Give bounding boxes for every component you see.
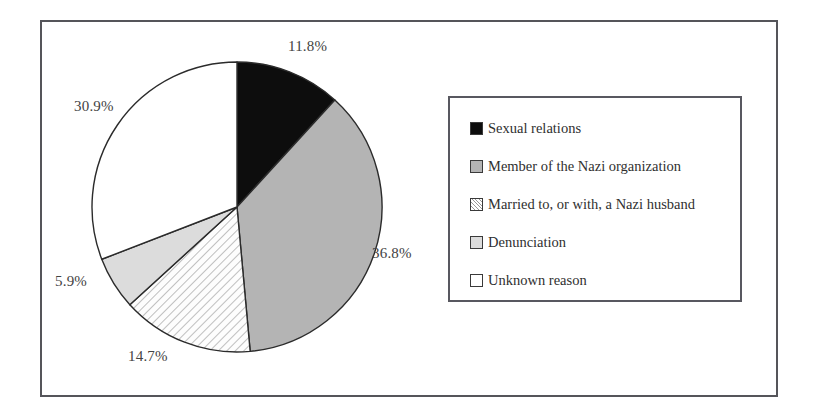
legend-swatch-sexual-relations [470, 122, 483, 135]
legend-label-denunciation: Denunciation [488, 235, 566, 250]
chart-legend: Sexual relations Member of the Nazi orga… [448, 96, 742, 302]
legend-swatch-nazi-husband [470, 198, 483, 211]
legend-swatch-nazi-member [470, 160, 483, 173]
legend-label-unknown-reason: Unknown reason [488, 273, 587, 288]
pie-value-label-nazi-husband: 14.7% [128, 348, 168, 365]
legend-item-nazi-member: Member of the Nazi organization [470, 148, 740, 184]
legend-item-nazi-husband: Married to, or with, a Nazi husband [470, 186, 740, 222]
legend-label-nazi-member: Member of the Nazi organization [488, 159, 681, 174]
legend-item-sexual-relations: Sexual relations [470, 110, 740, 146]
pie-value-label-nazi-member: 36.8% [372, 245, 412, 262]
legend-item-denunciation: Denunciation [470, 224, 740, 260]
legend-swatch-unknown-reason [470, 274, 483, 287]
legend-item-unknown-reason: Unknown reason [470, 262, 740, 298]
pie-slices [92, 62, 382, 352]
pie-value-label-unknown-reason: 30.9% [74, 98, 114, 115]
legend-label-sexual-relations: Sexual relations [488, 121, 581, 136]
pie-value-label-sexual-relations: 11.8% [288, 38, 327, 55]
legend-label-nazi-husband: Married to, or with, a Nazi husband [488, 197, 695, 212]
pie-value-label-denunciation: 5.9% [55, 273, 87, 290]
legend-swatch-denunciation [470, 236, 483, 249]
